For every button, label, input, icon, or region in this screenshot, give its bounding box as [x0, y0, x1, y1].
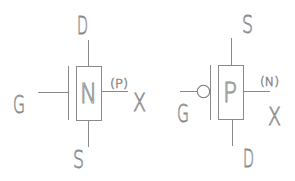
nmos-gate-label: G — [13, 91, 25, 119]
nmos-source-label: S — [73, 146, 84, 174]
nmos-bulk-type-label: (P) — [110, 76, 128, 91]
pmos-source-label: S — [242, 11, 253, 39]
nmos-transistor: N G D S (P) X — [13, 12, 146, 174]
pmos-drain-label: D — [243, 145, 254, 173]
transistor-diagram: N G D S (P) X P G S D (N) X — [0, 0, 295, 181]
nmos-drain-label: D — [77, 12, 88, 40]
pmos-bulk-label: X — [268, 103, 281, 131]
pmos-gate-bubble-icon — [197, 85, 209, 97]
pmos-bulk-type-label: (N) — [260, 74, 279, 89]
pmos-body-label: P — [223, 78, 237, 108]
nmos-body-label: N — [80, 79, 97, 109]
pmos-transistor: P G S D (N) X — [177, 11, 281, 173]
pmos-gate-label: G — [177, 100, 189, 128]
nmos-bulk-label: X — [133, 89, 146, 117]
